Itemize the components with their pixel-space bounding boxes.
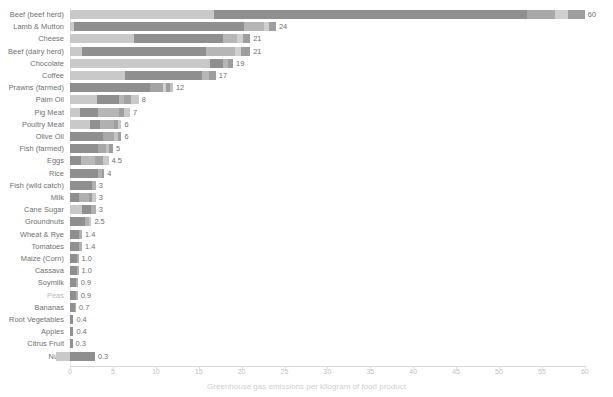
bar-segment[interactable] — [118, 120, 121, 129]
bar-segment[interactable] — [56, 352, 70, 361]
bar-segment[interactable] — [150, 83, 163, 92]
bar-segment[interactable] — [527, 10, 554, 19]
bar-segment[interactable] — [568, 10, 585, 19]
table-row[interactable]: Milk3 — [0, 192, 613, 203]
bar-segment[interactable] — [131, 95, 139, 104]
bar-segment[interactable] — [70, 339, 73, 348]
bar-segment[interactable] — [70, 327, 73, 336]
bar-segment[interactable] — [202, 71, 209, 80]
bar-segment[interactable] — [70, 181, 92, 190]
bar-segment[interactable] — [70, 315, 73, 324]
table-row[interactable]: Wheat & Rye1.4 — [0, 229, 613, 240]
table-row[interactable]: Pig Meat7 — [0, 107, 613, 118]
bar-segment[interactable] — [214, 10, 527, 19]
bar-segment[interactable] — [243, 34, 250, 43]
bar-segment[interactable] — [228, 59, 233, 68]
table-row[interactable]: Nuts0.3 — [0, 351, 613, 362]
bar-segment[interactable] — [91, 205, 96, 214]
bar-segment[interactable] — [95, 156, 103, 165]
bar-segment[interactable] — [223, 34, 238, 43]
bar-segment[interactable] — [209, 71, 216, 80]
bar-segment[interactable] — [244, 22, 264, 31]
bar-segment[interactable] — [90, 120, 100, 129]
table-row[interactable]: Poultry Meat6 — [0, 119, 613, 130]
bar-segment[interactable] — [206, 47, 234, 56]
bar-segment[interactable] — [70, 47, 82, 56]
bar-segment[interactable] — [92, 193, 95, 202]
bar-segment[interactable] — [98, 144, 106, 153]
bar-segment[interactable] — [76, 291, 78, 300]
bar-segment[interactable] — [79, 230, 82, 239]
bar-segment[interactable] — [70, 34, 134, 43]
table-row[interactable]: Cheese21 — [0, 33, 613, 44]
table-row[interactable]: Rice4 — [0, 168, 613, 179]
bar-segment[interactable] — [210, 59, 223, 68]
bar-segment[interactable] — [103, 132, 114, 141]
table-row[interactable]: Eggs4.5 — [0, 155, 613, 166]
bar-segment[interactable] — [89, 217, 92, 226]
table-row[interactable]: Bananas0.7 — [0, 302, 613, 313]
bar-segment[interactable] — [118, 132, 121, 141]
bar-segment[interactable] — [77, 266, 79, 275]
table-row[interactable]: Apples0.4 — [0, 326, 613, 337]
bar-segment[interactable] — [81, 156, 95, 165]
bar-segment[interactable] — [70, 242, 79, 251]
table-row[interactable]: Fish (wild catch)3 — [0, 180, 613, 191]
bar-segment[interactable] — [70, 132, 103, 141]
bar-segment[interactable] — [70, 266, 77, 275]
bar-segment[interactable] — [70, 59, 210, 68]
bar-segment[interactable] — [98, 108, 119, 117]
bar-segment[interactable] — [79, 193, 89, 202]
table-row[interactable]: Chocolate19 — [0, 58, 613, 69]
bar-segment[interactable] — [70, 193, 79, 202]
bar-segment[interactable] — [555, 10, 568, 19]
table-row[interactable]: Palm Oil8 — [0, 94, 613, 105]
bar-segment[interactable] — [70, 95, 97, 104]
bar-segment[interactable] — [70, 169, 98, 178]
bar-segment[interactable] — [82, 205, 91, 214]
table-row[interactable]: Maize (Corn)1.0 — [0, 253, 613, 264]
bar-segment[interactable] — [97, 95, 119, 104]
bar-segment[interactable] — [241, 47, 250, 56]
table-row[interactable]: Peas0.9 — [0, 290, 613, 301]
bar-segment[interactable] — [125, 71, 202, 80]
bar-segment[interactable] — [80, 108, 98, 117]
table-row[interactable]: Citrus Fruit0.3 — [0, 338, 613, 349]
bar-segment[interactable] — [70, 10, 214, 19]
bar-segment[interactable] — [70, 156, 81, 165]
table-row[interactable]: Soymilk0.9 — [0, 277, 613, 288]
bar-segment[interactable] — [70, 83, 150, 92]
bar-segment[interactable] — [82, 47, 206, 56]
table-row[interactable]: Beef (beef herd)60 — [0, 9, 613, 20]
bar-segment[interactable] — [134, 34, 222, 43]
bar-segment[interactable] — [109, 144, 112, 153]
bar-segment[interactable] — [70, 230, 79, 239]
bar-segment[interactable] — [70, 120, 90, 129]
table-row[interactable]: Lamb & Mutton24 — [0, 21, 613, 32]
table-row[interactable]: Beef (dairy herd)21 — [0, 46, 613, 57]
bar-segment[interactable] — [77, 254, 79, 263]
bar-segment[interactable] — [103, 156, 109, 165]
bar-segment[interactable] — [269, 22, 276, 31]
table-row[interactable]: Cassava1.0 — [0, 265, 613, 276]
table-row[interactable]: Groundnuts2.5 — [0, 216, 613, 227]
table-row[interactable]: Fish (farmed)5 — [0, 143, 613, 154]
bar-segment[interactable] — [70, 108, 80, 117]
table-row[interactable]: Olive Oil6 — [0, 131, 613, 142]
table-row[interactable]: Coffee17 — [0, 70, 613, 81]
table-row[interactable]: Tomatoes1.4 — [0, 241, 613, 252]
bar-segment[interactable] — [70, 144, 98, 153]
bar-segment[interactable] — [79, 242, 82, 251]
bar-segment[interactable] — [70, 71, 125, 80]
bar-segment[interactable] — [74, 22, 244, 31]
table-row[interactable]: Root Vegetables0.4 — [0, 314, 613, 325]
bar-segment[interactable] — [170, 83, 173, 92]
bar-segment[interactable] — [70, 217, 85, 226]
bar-segment[interactable] — [70, 254, 77, 263]
table-row[interactable]: Cane Sugar3 — [0, 204, 613, 215]
bar-segment[interactable] — [70, 352, 95, 361]
bar-segment[interactable] — [124, 108, 130, 117]
bar-segment[interactable] — [124, 95, 131, 104]
table-row[interactable]: Prawns (farmed)12 — [0, 82, 613, 93]
bar-segment[interactable] — [100, 120, 114, 129]
